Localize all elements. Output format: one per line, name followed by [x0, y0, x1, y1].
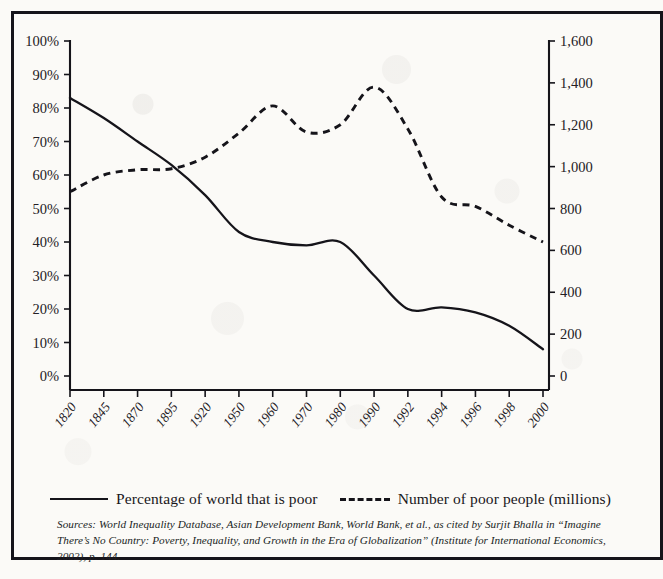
y-left-tick-label: 50% — [32, 201, 59, 217]
y-axis-left-labels: 0%10%20%30%40%50%60%70%80%90%100% — [25, 33, 59, 384]
y-left-tick-label: 80% — [32, 100, 59, 116]
y-left-tick-label: 20% — [32, 301, 59, 317]
y-left-tick-label: 30% — [32, 268, 59, 284]
x-tick-label: 1895 — [152, 399, 181, 430]
x-tick-label: 1990 — [355, 399, 384, 430]
axes-group — [70, 40, 549, 390]
data-series-group — [70, 87, 543, 349]
legend-item-number: Number of poor people (millions) — [340, 490, 611, 508]
y-right-tick-label: 200 — [560, 326, 582, 342]
y-left-tick-label: 90% — [32, 67, 59, 83]
y-right-tick-label: 1,400 — [560, 75, 593, 91]
x-tick-label: 1998 — [490, 399, 519, 430]
x-tick-label: 1996 — [456, 399, 485, 430]
y-right-tick-label: 1,000 — [560, 159, 593, 175]
x-tick-label: 2000 — [524, 399, 553, 430]
y-left-tick-label: 40% — [32, 234, 59, 250]
solid-line-swatch-icon — [50, 498, 108, 500]
legend-label-number: Number of poor people (millions) — [398, 490, 611, 508]
series-line-percentage-poor — [70, 98, 543, 349]
x-tick-label: 1994 — [423, 399, 452, 430]
x-tick-label: 1992 — [389, 399, 418, 430]
tick-marks-group — [64, 41, 555, 397]
y-right-tick-label: 1,600 — [560, 33, 593, 49]
y-right-tick-label: 1,200 — [560, 117, 593, 133]
y-left-tick-label: 60% — [32, 167, 59, 183]
y-axis-right-labels: 02004006008001,0001,2001,4001,600 — [560, 33, 593, 384]
legend-label-percentage: Percentage of world that is poor — [116, 490, 318, 508]
y-right-tick-label: 400 — [560, 284, 582, 300]
x-tick-label: 1950 — [220, 399, 249, 430]
x-tick-label: 1920 — [186, 399, 215, 430]
source-note: Sources: World Inequality Database, Asia… — [57, 516, 609, 565]
x-tick-label: 1970 — [287, 399, 316, 430]
y-left-tick-label: 0% — [40, 368, 59, 384]
series-line-number-of-poor — [70, 87, 543, 242]
y-right-tick-label: 600 — [560, 242, 582, 258]
y-right-tick-label: 800 — [560, 201, 582, 217]
chart-legend: Percentage of world that is poor Number … — [50, 487, 620, 511]
x-tick-label: 1845 — [85, 399, 114, 430]
x-axis-labels: 1820184518701895192019501960197019801990… — [51, 399, 553, 430]
y-left-tick-label: 10% — [32, 335, 59, 351]
x-tick-label: 1820 — [51, 399, 80, 430]
y-left-tick-label: 100% — [25, 33, 59, 49]
x-tick-label: 1980 — [321, 399, 350, 430]
legend-item-percentage: Percentage of world that is poor — [50, 490, 318, 508]
dashed-line-swatch-icon — [340, 498, 390, 501]
y-right-tick-label: 0 — [560, 368, 567, 384]
x-tick-label: 1870 — [118, 399, 147, 430]
y-left-tick-label: 70% — [32, 134, 59, 150]
x-tick-label: 1960 — [254, 399, 283, 430]
